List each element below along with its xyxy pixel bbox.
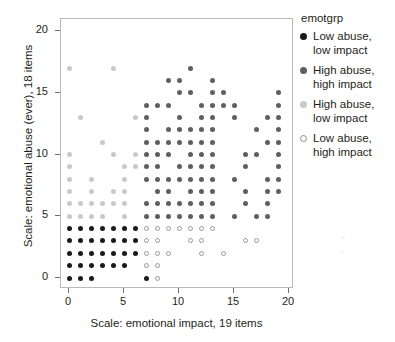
y-axis-tick xyxy=(55,30,60,31)
x-axis-tick-label: 15 xyxy=(218,295,248,307)
legend: emotgrp Low abuse,low impactHigh abuse,h… xyxy=(300,12,395,166)
data-point xyxy=(188,238,193,243)
data-point xyxy=(210,214,215,219)
data-point xyxy=(111,189,116,194)
data-point xyxy=(177,164,182,169)
legend-items: Low abuse,low impactHigh abuse,high impa… xyxy=(300,30,395,159)
data-point xyxy=(210,164,215,169)
legend-item-label-line2: high impact xyxy=(313,146,372,158)
data-point xyxy=(67,238,72,243)
legend-item-label-line1: High abuse, xyxy=(313,64,374,76)
data-point xyxy=(100,238,105,243)
data-point xyxy=(78,276,83,281)
data-point xyxy=(78,238,83,243)
data-point xyxy=(67,276,72,281)
data-point xyxy=(89,251,94,256)
data-point xyxy=(78,226,83,231)
data-point xyxy=(166,78,171,83)
x-axis-tick-label: 20 xyxy=(273,295,303,307)
data-point xyxy=(210,189,215,194)
data-point xyxy=(144,276,149,281)
data-point xyxy=(265,177,270,182)
data-point xyxy=(199,189,204,194)
data-point xyxy=(188,164,193,169)
data-point xyxy=(221,103,226,108)
y-axis-tick xyxy=(55,92,60,93)
data-point xyxy=(67,263,72,268)
data-point xyxy=(177,226,182,231)
data-point xyxy=(166,201,171,206)
data-point xyxy=(78,115,83,120)
legend-item-label-line1: Low abuse, xyxy=(313,132,372,144)
legend-item[interactable]: Low abuse,low impact xyxy=(300,30,395,57)
data-point xyxy=(122,201,127,206)
data-point xyxy=(122,214,127,219)
data-point xyxy=(210,103,215,108)
data-point xyxy=(67,66,72,71)
data-point xyxy=(210,115,215,120)
data-point xyxy=(100,263,105,268)
data-point xyxy=(199,238,204,243)
legend-item[interactable]: Low abuse,high impact xyxy=(300,132,395,159)
data-point xyxy=(265,214,270,219)
x-axis-tick-label: 10 xyxy=(163,295,193,307)
legend-item[interactable]: High abuse,high impact xyxy=(300,64,395,91)
legend-marker-icon xyxy=(300,101,307,108)
data-point xyxy=(243,164,248,169)
data-point xyxy=(166,103,171,108)
data-point xyxy=(199,140,204,145)
data-point xyxy=(166,177,171,182)
legend-item-label: High abuse,low impact xyxy=(313,98,374,125)
data-point xyxy=(243,152,248,157)
scatter-plot-figure: 0510152005101520 Scale: emotional impact… xyxy=(0,0,395,342)
data-point xyxy=(166,251,171,256)
data-point xyxy=(155,140,160,145)
data-point xyxy=(210,90,215,95)
data-point xyxy=(155,263,160,268)
scan-artifact: ⌁ xyxy=(341,233,346,242)
data-point xyxy=(144,177,149,182)
data-point xyxy=(133,115,138,120)
data-point xyxy=(276,140,281,145)
data-point xyxy=(67,226,72,231)
x-axis-tick xyxy=(233,288,234,293)
data-point xyxy=(155,152,160,157)
data-point xyxy=(166,140,171,145)
data-point xyxy=(67,164,72,169)
data-point xyxy=(221,90,226,95)
data-point xyxy=(155,214,160,219)
data-point xyxy=(199,214,204,219)
data-point xyxy=(210,127,215,132)
data-point xyxy=(188,66,193,71)
data-point xyxy=(144,164,149,169)
data-point xyxy=(67,152,72,157)
y-axis-tick xyxy=(55,215,60,216)
data-point xyxy=(67,189,72,194)
data-point xyxy=(144,103,149,108)
data-point xyxy=(111,201,116,206)
data-point xyxy=(188,177,193,182)
data-point xyxy=(177,78,182,83)
legend-marker-icon xyxy=(300,135,307,142)
data-point xyxy=(188,226,193,231)
data-point xyxy=(133,226,138,231)
legend-item[interactable]: High abuse,low impact xyxy=(300,98,395,125)
data-point xyxy=(199,177,204,182)
data-point xyxy=(232,177,237,182)
data-point xyxy=(232,115,237,120)
data-point xyxy=(210,177,215,182)
data-point xyxy=(100,201,105,206)
data-point xyxy=(133,251,138,256)
data-point xyxy=(166,152,171,157)
data-point xyxy=(133,164,138,169)
data-point xyxy=(144,127,149,132)
data-point xyxy=(78,214,83,219)
data-point xyxy=(199,103,204,108)
data-point xyxy=(199,164,204,169)
data-point xyxy=(89,276,94,281)
legend-item-label-line1: Low abuse, xyxy=(313,30,372,42)
x-axis-tick xyxy=(178,288,179,293)
data-point xyxy=(122,226,127,231)
data-point xyxy=(155,189,160,194)
data-point xyxy=(188,201,193,206)
